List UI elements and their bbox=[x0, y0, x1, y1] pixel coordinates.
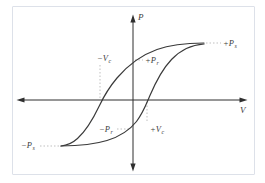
neg-ps-text: −P bbox=[21, 140, 32, 150]
neg-saturation-polarization-label: −Ps bbox=[21, 140, 35, 151]
neg-vc-text: −V bbox=[97, 53, 108, 63]
pos-vc-text: +V bbox=[150, 124, 161, 134]
axis-arrowheads-group bbox=[17, 15, 248, 172]
pos-coercive-voltage-label: +Vc bbox=[150, 124, 164, 135]
dotted-leaders-group bbox=[40, 43, 221, 146]
pos-pr-subscript: r bbox=[156, 60, 158, 66]
neg-vc-subscript: c bbox=[108, 58, 111, 64]
h-axis-left-arrowhead bbox=[17, 97, 25, 102]
hysteresis-plot-svg bbox=[0, 0, 265, 183]
pos-vc-subscript: c bbox=[161, 129, 164, 135]
neg-ps-subscript: s bbox=[32, 145, 34, 151]
v-axis-label: V bbox=[240, 105, 246, 115]
v-axis-top-arrowhead bbox=[130, 15, 135, 23]
v-axis-bottom-arrowhead bbox=[130, 164, 135, 172]
neg-remanent-polarization-label: −Pr bbox=[99, 124, 113, 135]
h-axis-right-arrowhead bbox=[240, 97, 248, 102]
pos-ps-text: +P bbox=[223, 38, 234, 48]
pos-pr-text: +P bbox=[145, 55, 156, 65]
neg-pr-text: −P bbox=[99, 124, 110, 134]
hysteresis-figure: P V +Ps −Ps −Vc +Pr −Pr +Vc bbox=[0, 0, 265, 183]
neg-pr-subscript: r bbox=[110, 129, 112, 135]
pos-saturation-polarization-label: +Ps bbox=[223, 38, 237, 49]
pos-remanent-polarization-label: +Pr bbox=[145, 55, 159, 66]
p-axis-label: P bbox=[138, 12, 144, 22]
axes-group bbox=[20, 18, 244, 166]
pos-ps-subscript: s bbox=[234, 43, 236, 49]
neg-coercive-voltage-label: −Vc bbox=[97, 53, 111, 64]
